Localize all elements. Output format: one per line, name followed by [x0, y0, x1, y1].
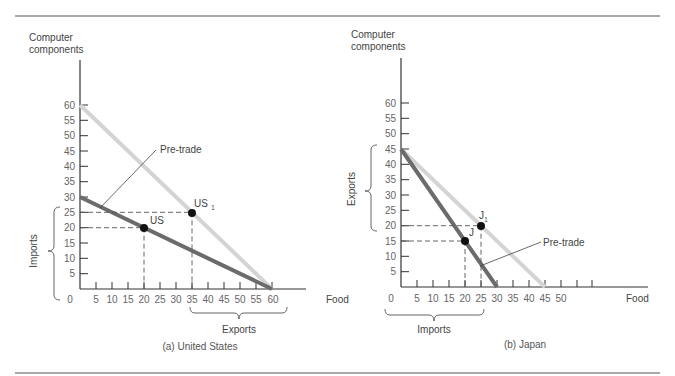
japan-exports-brace: [365, 145, 377, 231]
us-exports-label: Exports: [222, 324, 256, 335]
us-pretrade-line: [80, 197, 272, 289]
svg-text:45: 45: [64, 146, 76, 157]
japan-y-tick-marks: [401, 103, 409, 272]
svg-text:20: 20: [64, 222, 76, 233]
us-y-tick-marks: [80, 105, 88, 274]
svg-text:35: 35: [507, 293, 519, 304]
us-pretrade-point: [140, 224, 148, 232]
svg-text:40: 40: [64, 161, 76, 172]
japan-x-tick-marks: [417, 280, 592, 287]
svg-text:10: 10: [385, 251, 397, 262]
japan-imports-brace: [385, 309, 484, 321]
svg-text:10: 10: [427, 293, 439, 304]
svg-text:5: 5: [414, 293, 420, 304]
svg-text:30: 30: [64, 192, 76, 203]
us-imports-brace: [48, 207, 60, 300]
japan-imports-label: Imports: [417, 324, 450, 335]
svg-text:25: 25: [154, 294, 166, 305]
panel-japan: Computer components 60 55 50 45 40 35 30…: [346, 29, 649, 350]
svg-text:25: 25: [475, 293, 487, 304]
svg-text:40: 40: [385, 159, 397, 170]
us-x-tick-marks: [96, 282, 272, 289]
us-caption: (a) United States: [162, 341, 237, 352]
svg-text:20: 20: [385, 220, 397, 231]
svg-text:35: 35: [385, 174, 397, 185]
us-pretrade-leader: [100, 150, 156, 208]
svg-text:15: 15: [122, 294, 134, 305]
svg-text:5: 5: [390, 266, 396, 277]
us-point-label: US: [150, 215, 164, 226]
us-y-axis-title-2: components: [29, 44, 83, 55]
japan-y-axis-title-2: components: [351, 41, 405, 52]
svg-text:50: 50: [385, 128, 397, 139]
us-x-axis-title: Food: [326, 294, 349, 305]
svg-text:45: 45: [539, 293, 551, 304]
svg-text:40: 40: [202, 294, 214, 305]
japan-x-tick-labels: 0 5 10 15 20 25 30 35 40 45 50: [388, 293, 567, 304]
svg-text:30: 30: [170, 294, 182, 305]
svg-text:25: 25: [64, 207, 76, 218]
svg-text:15: 15: [443, 293, 455, 304]
svg-text:60: 60: [385, 98, 397, 109]
japan-pretrade-point: [461, 237, 469, 245]
svg-text:15: 15: [385, 236, 397, 247]
svg-text:60: 60: [64, 100, 76, 111]
svg-text:15: 15: [64, 238, 76, 249]
trade-diagram: Computer components 60 55 50 45 40 35 30…: [0, 0, 675, 376]
us-exports-brace: [190, 307, 287, 319]
us-pretrade-label: Pre-trade: [160, 144, 202, 155]
japan-x-axis-title: Food: [626, 293, 649, 304]
svg-text:5: 5: [93, 294, 99, 305]
svg-text:10: 10: [64, 253, 76, 264]
us-y-axis-title-1: Computer: [29, 32, 74, 43]
japan-y-tick-labels: 60 55 50 45 40 35 30 25 20 15 10 5: [385, 98, 397, 278]
us1-point-label: US: [194, 198, 208, 209]
svg-text:5: 5: [69, 268, 75, 279]
svg-text:20: 20: [138, 294, 150, 305]
svg-text:25: 25: [385, 205, 397, 216]
svg-text:35: 35: [64, 176, 76, 187]
us-trade-line: [80, 105, 272, 289]
svg-text:50: 50: [555, 293, 567, 304]
us1-subscript: 1: [211, 204, 215, 211]
japan-trade-line: [401, 149, 545, 287]
svg-text:50: 50: [234, 294, 246, 305]
svg-text:20: 20: [459, 293, 471, 304]
svg-text:30: 30: [491, 293, 503, 304]
japan-trade-point: [477, 222, 485, 230]
svg-text:50: 50: [64, 130, 76, 141]
us-x-tick-labels: 0 5 10 15 20 25 30 35 40 45 50 55 60: [67, 294, 279, 305]
svg-text:55: 55: [64, 115, 76, 126]
j1-subscript: 1: [484, 216, 488, 223]
svg-text:10: 10: [106, 294, 118, 305]
svg-text:40: 40: [523, 293, 535, 304]
japan-pretrade-leader: [480, 242, 541, 266]
svg-text:0: 0: [388, 293, 394, 304]
svg-text:45: 45: [218, 294, 230, 305]
japan-y-axis-title-1: Computer: [351, 29, 396, 40]
us-trade-point: [188, 209, 196, 217]
japan-caption: (b) Japan: [504, 339, 546, 350]
svg-text:45: 45: [385, 144, 397, 155]
svg-text:0: 0: [67, 294, 73, 305]
us-imports-label: Imports: [28, 234, 39, 267]
svg-text:35: 35: [186, 294, 198, 305]
japan-exports-label: Exports: [346, 172, 357, 206]
svg-text:55: 55: [385, 113, 397, 124]
svg-text:55: 55: [250, 294, 262, 305]
svg-text:60: 60: [267, 294, 279, 305]
us-y-tick-labels: 60 55 50 45 40 35 30 25 20 15 10 5: [64, 100, 76, 280]
japan-pretrade-label: Pre-trade: [543, 237, 585, 248]
panel-united-states: Computer components 60 55 50 45 40 35 30…: [28, 32, 349, 352]
j-point-label: J: [469, 227, 474, 238]
svg-text:30: 30: [385, 190, 397, 201]
